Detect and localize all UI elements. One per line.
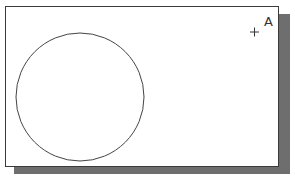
drawn-circle (16, 33, 144, 161)
point-label-a: A (264, 14, 273, 29)
crosshair-marker-icon (250, 28, 259, 37)
drawing-canvas (0, 0, 295, 176)
